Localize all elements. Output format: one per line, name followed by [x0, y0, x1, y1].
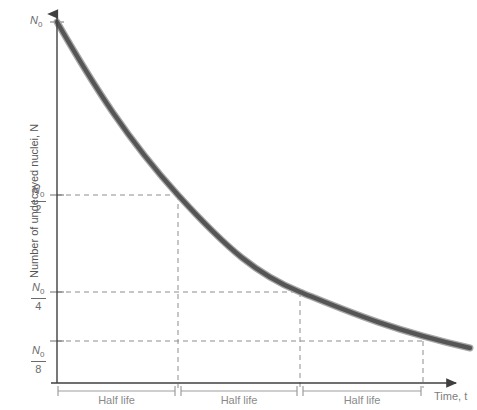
- y-tick-label-n0-subscript: 0: [38, 20, 42, 29]
- y-tick-label-n0-over-4-numerator: N0: [30, 281, 46, 297]
- half-life-label-1: Half life: [58, 394, 175, 406]
- y-tick-label-n0-over-8: N0 8: [30, 344, 46, 375]
- y-tick-label-n0-over-8-denominator: 8: [33, 363, 43, 375]
- y-tick-label-n0-over-4: N0 4: [30, 281, 46, 312]
- y-tick-label-n0-over-2-numerator: N0: [30, 184, 46, 200]
- y-tick-label-n0-over-2: N0 2: [30, 184, 46, 215]
- decay-curve: [57, 22, 470, 348]
- y-tick-label-n0-over-2-denominator: 2: [33, 203, 43, 215]
- y-tick-label-n0-symbol: N: [30, 14, 38, 26]
- fraction-bar: [31, 201, 46, 202]
- chart-canvas: [0, 0, 477, 410]
- y-tick-label-n0-over-4-denominator: 4: [33, 300, 43, 312]
- decay-curve-edge: [57, 22, 470, 348]
- y-tick-label-n0: N0: [30, 14, 42, 29]
- half-life-label-2: Half life: [181, 394, 297, 406]
- half-life-label-3: Half life: [303, 394, 421, 406]
- y-tick-label-n0-over-8-numerator: N0: [30, 344, 46, 360]
- fraction-bar: [31, 361, 46, 362]
- x-axis-label: Time, t: [434, 390, 467, 402]
- decay-chart: Number of undecayed nuclei, N N0 N0 2 N0…: [0, 0, 477, 410]
- fraction-bar: [31, 298, 46, 299]
